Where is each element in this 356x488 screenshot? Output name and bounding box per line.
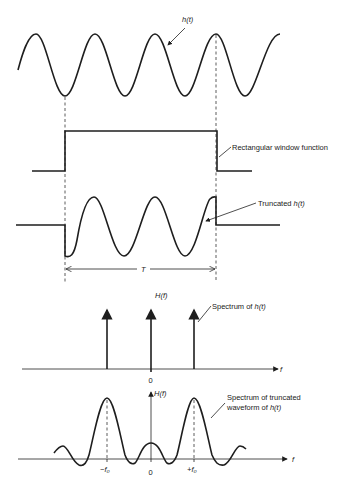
neg-f0-label: −f₀ [100,465,110,474]
truncated-label-pointer [206,203,256,221]
duration-label: T [141,265,147,274]
truncated-spectrum-f-axis-label: f [292,455,295,464]
truncated-spectrum-label-line2: waveform of h(t) [226,403,282,412]
h-t-pointer-arrow [168,28,185,45]
fourier-truncation-diagram: h(t) Rectangular window function Truncat… [0,0,356,488]
truncated-spectrum-label-leader [211,403,225,418]
spectrum-f-axis-label: f [280,365,283,374]
sine-wave-curve [18,34,280,96]
spectrum-origin-label: 0 [149,376,153,385]
window-label-leader [219,147,231,157]
truncated-spectrum-y-label: H(f) [154,389,167,398]
h-t-label: h(t) [182,15,194,24]
spectrum-label: Spectrum of h(t) [212,302,266,311]
sinc-spectrum-curve [54,398,246,465]
truncated-signal-curve [16,197,280,257]
spectrum-y-label: H(f) [155,291,168,300]
spectrum-panel: f H(f) 0 Spectrum of h(t) [22,291,283,385]
time-signal-panel: h(t) [18,15,280,96]
pos-f0-label: +f₀ [187,465,197,474]
truncated-label: Truncated h(t) [258,199,305,208]
truncated-spectrum-panel: f H(f) −f₀ 0 +f₀ Spectrum of truncated w… [18,389,301,477]
truncated-panel: Truncated h(t) T [16,197,305,274]
spectrum-label-leader [198,306,211,322]
window-panel: Rectangular window function [32,131,328,171]
window-label: Rectangular window function [232,143,328,152]
rectangular-window-curve [32,131,252,171]
truncated-spectrum-origin-label: 0 [149,468,153,477]
truncated-spectrum-label-line1: Spectrum of truncated [227,393,301,402]
